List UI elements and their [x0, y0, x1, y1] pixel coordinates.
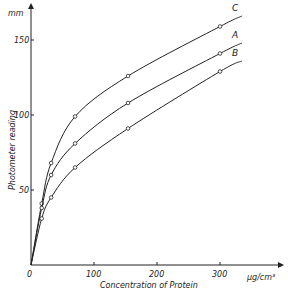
y-axis-arrow-icon [28, 3, 34, 9]
x-axis-label: Concentration of Protein [100, 281, 198, 290]
data-point [73, 166, 77, 170]
ticks: 010020030050100150 [14, 36, 227, 279]
curve-label-B: B [232, 48, 238, 58]
data-point [49, 173, 53, 177]
x-tick-label: 100 [86, 270, 101, 279]
y-axis-label: Photometer reading [8, 110, 17, 190]
axes [28, 3, 284, 268]
data-point [218, 70, 222, 74]
x-tick-label: 300 [212, 270, 227, 279]
y-tick-label: 50 [19, 186, 29, 195]
data-point [126, 127, 130, 131]
x-unit-label: µg/cm³ [246, 273, 275, 282]
curve-label-C: C [232, 3, 239, 13]
y-unit-label: mm [8, 9, 24, 18]
curve-C [31, 16, 242, 265]
x-tick-label: 0 [27, 270, 32, 279]
curve-label-A: A [231, 30, 238, 40]
x-axis-arrow-icon [278, 262, 284, 268]
curve-B [31, 61, 242, 265]
data-point [126, 101, 130, 105]
curves: CAB [31, 3, 242, 265]
data-point [73, 142, 77, 146]
data-point [49, 196, 53, 200]
data-point [218, 52, 222, 56]
data-point [73, 115, 77, 119]
y-tick-label: 150 [14, 36, 29, 45]
x-tick-label: 200 [149, 270, 164, 279]
data-point [49, 161, 53, 165]
chart: 010020030050100150 CAB mm Photometer rea… [0, 0, 288, 294]
data-point [218, 25, 222, 29]
data-point [126, 74, 130, 78]
data-point [40, 217, 44, 221]
curve-A [31, 43, 242, 265]
data-point [40, 206, 44, 210]
